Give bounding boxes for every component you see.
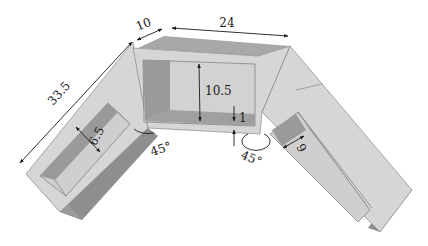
trough-diagram: 33.5 10 24 10.5 1 6.5 9 45° 45° [0, 0, 428, 246]
right-angle-label: 45° [239, 148, 264, 169]
dim-arm-length-label: 33.5 [45, 79, 73, 108]
dim-wall-width-label: 10 [134, 15, 153, 34]
dim-floor-thickness-label: 1 [239, 111, 247, 125]
right-arm [262, 46, 412, 232]
dim-center-height-label: 10.5 [205, 84, 232, 98]
dim-center-length-label: 24 [219, 16, 235, 30]
